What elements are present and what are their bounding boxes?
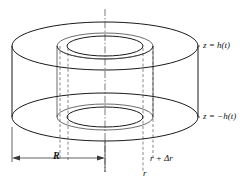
label-z-top: z = h(t) [203, 41, 230, 50]
label-outer-radius-R: R [53, 151, 60, 161]
label-z-bottom: z = −h(t) [203, 112, 236, 121]
label-inner-radius-r: r [143, 169, 147, 178]
radius-arrow-left [12, 156, 20, 161]
radius-arrow-right [97, 156, 105, 161]
cylinder-diagram [0, 0, 249, 185]
figure-container: z = h(t) z = −h(t) R r + Δr r [0, 0, 249, 185]
label-inner-radius-r-plus-delta-r: r + Δr [150, 154, 173, 163]
